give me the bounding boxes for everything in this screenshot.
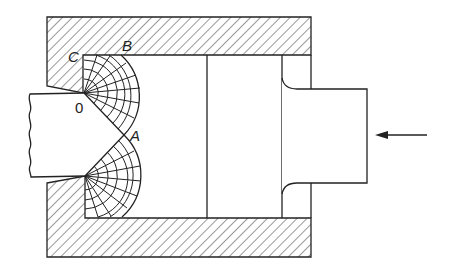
- label-point-c: C: [68, 48, 79, 65]
- force-arrow-icon: [375, 131, 427, 139]
- label-point-o: 0: [75, 99, 83, 116]
- label-point-a: A: [129, 127, 140, 144]
- container-wall-lower: [47, 176, 311, 257]
- slip-line-field-upper: [84, 49, 149, 135]
- container-wall: [47, 17, 311, 93]
- extrusion-diagram: 0 A B C: [0, 0, 463, 270]
- ram: [282, 78, 367, 194]
- label-point-b: B: [122, 37, 132, 54]
